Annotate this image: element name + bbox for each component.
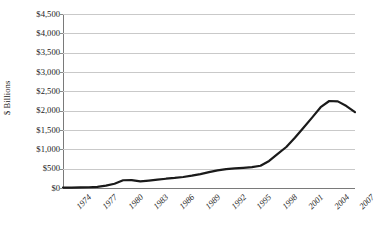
y-axis-tick-mark: [59, 149, 63, 150]
x-axis-tick-label: 1980: [126, 192, 145, 211]
y-axis-tick-mark: [59, 169, 63, 170]
x-axis-tick-label: 2004: [332, 192, 351, 211]
x-axis-tick-label: 1983: [151, 192, 170, 211]
x-axis-tick-label: 1998: [280, 192, 299, 211]
x-axis-tick-label: 1992: [229, 192, 248, 211]
y-axis-tick-mark: [59, 33, 63, 34]
x-axis-tick-label: 1989: [203, 192, 222, 211]
x-axis-tick-label: 2001: [306, 192, 325, 211]
y-axis-tick-mark: [59, 188, 63, 189]
x-axis-tick-label: 1977: [100, 192, 119, 211]
y-axis-tick-mark: [59, 72, 63, 73]
y-axis-tick-mark: [59, 91, 63, 92]
figure-caption: [0, 229, 363, 237]
y-axis-tick-mark: [59, 111, 63, 112]
y-axis-tick-mark: [59, 130, 63, 131]
y-axis-tick-mark: [59, 14, 63, 15]
x-axis-tick-label: 1986: [177, 192, 196, 211]
x-axis-tick-label: 1974: [74, 192, 93, 211]
y-axis-tick-mark: [59, 53, 63, 54]
x-axis-tick-label: 1995: [254, 192, 273, 211]
x-axis-tick-label: 2007: [357, 192, 376, 211]
